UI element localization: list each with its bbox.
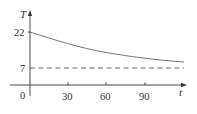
chart: T t 22 7 0 30 60 90 [0,0,197,114]
x-tick-label-30: 30 [62,91,73,102]
y-tick-label-7: 7 [20,63,25,74]
temperature-curve [30,32,184,62]
y-axis-label: T [20,8,27,20]
y-tick-label-22: 22 [14,27,25,38]
x-tick-label-60: 60 [100,91,111,102]
x-tick-label-90: 90 [139,91,150,102]
y-axis-arrow-icon [28,10,32,16]
x-axis-label: t [179,86,183,98]
origin-label: 0 [20,90,25,101]
